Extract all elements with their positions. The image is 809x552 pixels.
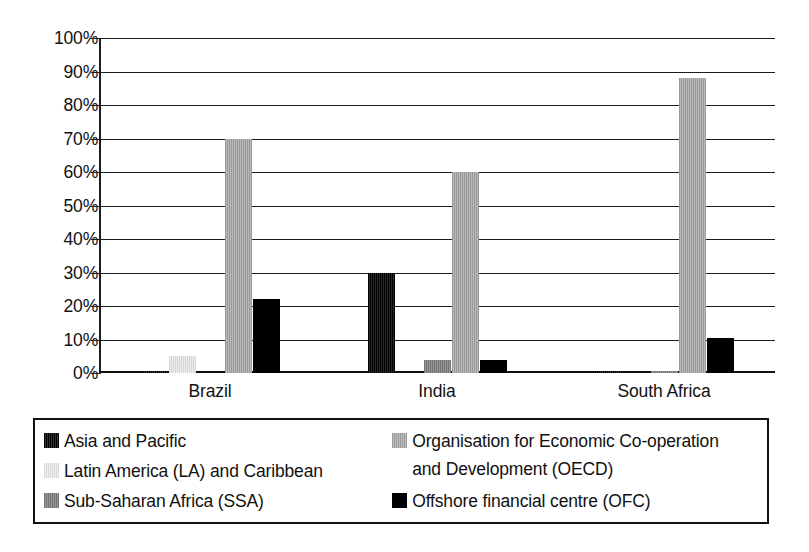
legend-swatch-icon-sub-saharan-africa xyxy=(44,493,59,508)
y-tick-label: 10% xyxy=(20,330,98,350)
bar-group-south-africa xyxy=(590,38,738,373)
bar-south-africa-oecd xyxy=(679,78,706,373)
y-tick-label: 90% xyxy=(20,62,98,82)
y-tick-label: 40% xyxy=(20,229,98,249)
bar-brazil-ofc xyxy=(253,299,280,373)
bar-chart-figure: 100% 90% 80% 70% 60% 50% 40% 30% 20% 10%… xyxy=(0,0,809,552)
plot-area xyxy=(100,38,775,373)
y-tick-label: 60% xyxy=(20,162,98,182)
legend-column-right: Organisation for Economic Co-operation a… xyxy=(391,427,767,522)
legend-swatch-icon-oecd xyxy=(392,433,407,448)
y-tick-label: 80% xyxy=(20,95,98,115)
bar-brazil-oecd xyxy=(225,139,252,374)
bar-brazil-latam xyxy=(169,356,196,373)
legend-item-offshore-financial-centre: Offshore financial centre (OFC) xyxy=(392,487,767,517)
legend-label-offshore-financial-centre: Offshore financial centre (OFC) xyxy=(412,487,650,515)
x-label-brazil: Brazil xyxy=(136,379,284,403)
legend-label-asia-and-pacific: Asia and Pacific xyxy=(64,427,186,455)
legend-item-oecd: Organisation for Economic Co-operation a… xyxy=(392,427,767,487)
bar-india-ofc xyxy=(480,360,507,373)
legend-swatch-icon-asia-and-pacific xyxy=(44,433,59,448)
legend-item-asia-and-pacific: Asia and Pacific xyxy=(44,427,391,457)
bar-group-india xyxy=(363,38,511,373)
legend-column-left: Asia and Pacific Latin America (LA) and … xyxy=(35,427,391,522)
x-label-india: India xyxy=(363,379,511,403)
bar-india-oecd xyxy=(452,172,479,373)
legend-item-latin-america-and-caribbean: Latin America (LA) and Caribbean xyxy=(44,457,391,487)
y-tick-label: 100% xyxy=(20,28,98,48)
y-tick-label: 70% xyxy=(20,129,98,149)
x-axis-category-labels: Brazil India South Africa xyxy=(100,379,775,407)
y-tick-label: 50% xyxy=(20,196,98,216)
bar-brazil-asia xyxy=(141,371,168,373)
plot-wrapper: 100% 90% 80% 70% 60% 50% 40% 30% 20% 10%… xyxy=(0,0,809,400)
bar-south-africa-ofc xyxy=(707,338,734,373)
y-tick-label: 0% xyxy=(20,363,98,383)
bar-group-brazil xyxy=(136,38,284,373)
legend-label-oecd: Organisation for Economic Co-operation a… xyxy=(412,427,719,483)
legend-label-latin-america-and-caribbean: Latin America (LA) and Caribbean xyxy=(64,457,323,485)
bar-south-africa-asia xyxy=(595,371,622,373)
legend-swatch-icon-offshore-financial-centre xyxy=(392,493,407,508)
legend-swatch-icon-latin-america-and-caribbean xyxy=(44,463,59,478)
x-label-south-africa: South Africa xyxy=(590,379,738,403)
legend-label-sub-saharan-africa: Sub-Saharan Africa (SSA) xyxy=(64,487,264,515)
y-axis-line xyxy=(99,38,101,374)
bar-india-ssa xyxy=(424,360,451,373)
y-tick-label: 30% xyxy=(20,263,98,283)
y-axis-tick-labels: 100% 90% 80% 70% 60% 50% 40% 30% 20% 10%… xyxy=(20,28,98,383)
legend-item-sub-saharan-africa: Sub-Saharan Africa (SSA) xyxy=(44,487,391,517)
bar-south-africa-ssa xyxy=(651,371,678,373)
bar-india-asia xyxy=(368,273,395,374)
chart-legend: Asia and Pacific Latin America (LA) and … xyxy=(33,418,769,524)
y-tick-label: 20% xyxy=(20,296,98,316)
